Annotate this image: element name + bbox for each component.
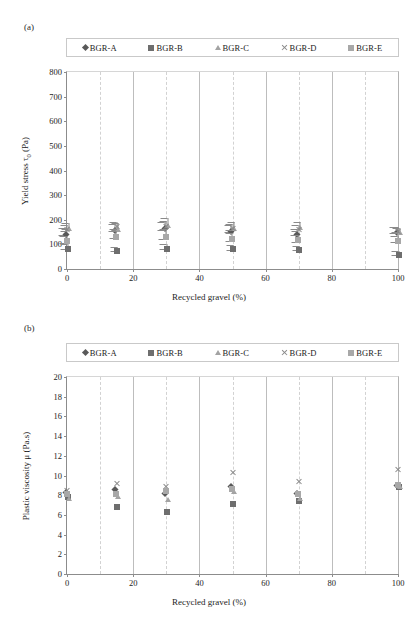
data-point-bgr-e xyxy=(163,480,169,498)
y-tick-label: 16 xyxy=(54,411,68,421)
y-tick-label: 12 xyxy=(54,451,68,461)
legend-item-bgr-a[interactable]: BGR-A xyxy=(83,348,117,358)
cross-x-marker-icon xyxy=(281,349,288,356)
square-light-marker-icon xyxy=(113,234,119,240)
square-light-marker-icon xyxy=(395,482,401,488)
x-tick-label: 80 xyxy=(328,574,337,588)
square-light-marker-icon xyxy=(229,236,235,242)
square-light-marker-icon xyxy=(64,491,70,497)
y-tick-label: 10 xyxy=(54,471,68,481)
x-axis-label-a: Recycled gravel (%) xyxy=(0,292,418,302)
y-tick-label: 600 xyxy=(49,116,67,126)
gridline-vertical xyxy=(199,377,200,574)
legend-label: BGR-D xyxy=(290,348,317,358)
y-tick-label: 800 xyxy=(49,67,67,77)
square-light-marker-icon xyxy=(113,491,119,497)
square-dark-marker-icon xyxy=(114,248,120,254)
square-dark-marker-icon xyxy=(114,504,120,510)
panel-b: (b) BGR-ABGR-BBGR-CBGR-DBGR-E 0246810121… xyxy=(0,315,418,623)
square-light-marker-icon xyxy=(348,45,354,51)
data-point-bgr-e xyxy=(229,478,235,496)
plot-area-a: 0100200300400500600700800020406080100 xyxy=(66,71,399,270)
square-light-marker-icon xyxy=(348,350,354,356)
gridline-vertical xyxy=(332,377,333,574)
legend-item-bgr-a[interactable]: BGR-A xyxy=(83,43,117,53)
triangle-marker-icon xyxy=(215,45,221,50)
square-dark-marker-icon xyxy=(396,252,402,258)
gridline-vertical xyxy=(266,377,267,574)
legend-panel-b: BGR-ABGR-BBGR-CBGR-DBGR-E xyxy=(66,343,399,362)
x-tick-label: 20 xyxy=(129,269,138,283)
legend-item-bgr-e[interactable]: BGR-E xyxy=(348,43,382,53)
square-light-marker-icon xyxy=(295,237,301,243)
square-light-marker-icon xyxy=(295,491,301,497)
x-tick-label: 40 xyxy=(195,269,204,283)
y-tick-label: 6 xyxy=(58,510,67,520)
square-dark-marker-icon xyxy=(164,509,170,515)
legend-item-bgr-d[interactable]: BGR-D xyxy=(281,348,317,358)
panel-a: (a) BGR-ABGR-BBGR-CBGR-DBGR-E 0100200300… xyxy=(0,0,418,315)
x-tick-label: 60 xyxy=(261,269,270,283)
data-point-bgr-e xyxy=(163,226,169,244)
panel-b-label: (b) xyxy=(24,323,35,333)
y-axis-label-b: Plastic viscosity μ (Pa.s) xyxy=(21,431,31,519)
data-point-bgr-e xyxy=(64,483,70,501)
legend-panel-a: BGR-ABGR-BBGR-CBGR-DBGR-E xyxy=(66,38,399,57)
y-axis-label-a: Yield stress τ0 (Pa) xyxy=(20,136,32,204)
panel-a-label: (a) xyxy=(24,22,34,32)
legend-label: BGR-C xyxy=(223,43,249,53)
legend-item-bgr-b[interactable]: BGR-B xyxy=(148,43,182,53)
legend-label: BGR-E xyxy=(356,43,382,53)
x-tick-label: 40 xyxy=(195,574,204,588)
square-dark-marker-icon xyxy=(148,45,154,51)
data-point-bgr-e xyxy=(113,226,119,244)
square-light-marker-icon xyxy=(229,486,235,492)
legend-item-bgr-b[interactable]: BGR-B xyxy=(148,348,182,358)
legend-item-bgr-c[interactable]: BGR-C xyxy=(215,43,249,53)
data-point-bgr-e xyxy=(64,230,70,248)
x-tick-label: 0 xyxy=(65,269,69,283)
gridline-vertical xyxy=(133,72,134,269)
y-tick-label: 700 xyxy=(49,92,67,102)
gridline-vertical xyxy=(100,72,101,269)
y-tick-label: 300 xyxy=(49,190,67,200)
y-tick-label: 14 xyxy=(54,431,68,441)
y-tick-label: 4 xyxy=(58,530,67,540)
data-point-bgr-e xyxy=(229,228,235,246)
legend-label: BGR-C xyxy=(223,348,249,358)
y-tick-label: 500 xyxy=(49,141,67,151)
gridline-vertical xyxy=(199,72,200,269)
square-light-marker-icon xyxy=(163,488,169,494)
diamond-marker-icon xyxy=(82,44,89,51)
legend-item-bgr-e[interactable]: BGR-E xyxy=(348,348,382,358)
square-dark-marker-icon xyxy=(148,350,154,356)
gridline-vertical xyxy=(266,72,267,269)
triangle-marker-icon xyxy=(215,350,221,355)
data-point-bgr-d xyxy=(229,462,236,480)
square-dark-marker-icon xyxy=(230,246,236,252)
x-tick-label: 0 xyxy=(65,574,69,588)
legend-label: BGR-E xyxy=(356,348,382,358)
gridline-vertical xyxy=(133,377,134,574)
gridline-vertical xyxy=(365,377,366,574)
square-dark-marker-icon xyxy=(296,247,302,253)
x-tick-label: 60 xyxy=(261,574,270,588)
gridline-vertical xyxy=(100,377,101,574)
data-point-bgr-e xyxy=(395,230,401,248)
y-label-subscript: 0 xyxy=(25,154,32,157)
cross-x-marker-icon xyxy=(229,469,236,476)
legend-item-bgr-d[interactable]: BGR-D xyxy=(281,43,317,53)
cross-x-marker-icon xyxy=(281,44,288,51)
y-tick-label: 400 xyxy=(49,166,67,176)
legend-label: BGR-D xyxy=(290,43,317,53)
legend-item-bgr-c[interactable]: BGR-C xyxy=(215,348,249,358)
square-dark-marker-icon xyxy=(164,246,170,252)
square-light-marker-icon xyxy=(395,238,401,244)
diamond-marker-icon xyxy=(82,349,89,356)
square-light-marker-icon xyxy=(64,238,70,244)
y-tick-label: 2 xyxy=(58,549,67,559)
y-tick-label: 18 xyxy=(54,392,68,402)
legend-label: BGR-A xyxy=(90,43,117,53)
legend-label: BGR-B xyxy=(156,348,182,358)
square-light-marker-icon xyxy=(163,234,169,240)
